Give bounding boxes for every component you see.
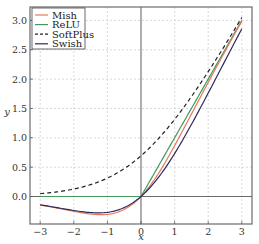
x-axis-label: x <box>138 231 144 242</box>
y-tick-label: 1.0 <box>12 132 27 143</box>
y-tick-label: 1.5 <box>12 103 27 114</box>
activation-function-chart: −3−2−10123 0.00.51.01.52.02.53.0 x y Mis… <box>0 0 259 244</box>
x-tick-label: 3 <box>239 226 245 237</box>
y-tick-label: 2.0 <box>12 74 27 85</box>
x-tick-label: −1 <box>100 226 114 237</box>
y-tick-label: 3.0 <box>12 15 27 26</box>
x-tick-label: 1 <box>172 226 178 237</box>
legend-label-swish: Swish <box>52 38 83 49</box>
x-tick-label: −3 <box>33 226 47 237</box>
y-axis-label: y <box>3 106 10 117</box>
x-tick-label: 2 <box>205 226 211 237</box>
legend: MishReLUSoftPlusSwish <box>32 8 94 49</box>
x-tick-label: −2 <box>67 226 81 237</box>
y-tick-label: 0.0 <box>12 191 27 202</box>
y-tick-label: 2.5 <box>12 44 27 55</box>
y-tick-label: 0.5 <box>12 162 27 173</box>
